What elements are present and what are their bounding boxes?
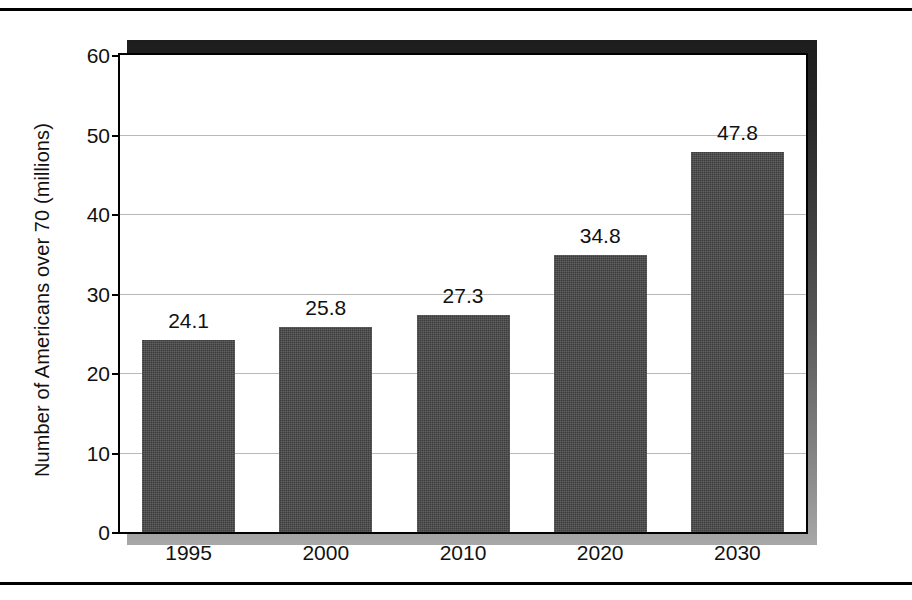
x-tick-label: 2020 — [577, 542, 624, 563]
y-tick-label: 0 — [98, 522, 110, 543]
x-tick-label: 2030 — [714, 542, 761, 563]
bar-value-label: 25.8 — [305, 297, 346, 318]
y-tick-mark — [112, 214, 120, 216]
bar-value-label: 24.1 — [168, 310, 209, 331]
y-axis-title-wrapper: Number of Americans over 70 (millions) — [22, 0, 62, 600]
y-axis-title: Number of Americans over 70 (millions) — [22, 0, 62, 600]
plot-area: 24.125.827.334.847.8 — [120, 55, 806, 532]
y-tick-label: 30 — [87, 283, 110, 304]
y-tick-mark — [112, 453, 120, 455]
x-tick-label: 2000 — [302, 542, 349, 563]
y-tick-mark — [112, 55, 120, 57]
bar-value-label: 34.8 — [580, 225, 621, 246]
gridline — [120, 135, 806, 136]
bar — [279, 327, 372, 532]
bar — [554, 255, 647, 532]
bar — [417, 315, 510, 532]
y-tick-mark — [112, 294, 120, 296]
y-axis-tick-labels: 0102030405060 — [64, 55, 110, 532]
bar-chart-figure: Number of Americans over 70 (millions) 0… — [0, 0, 912, 600]
bar — [691, 152, 784, 532]
y-tick-mark — [112, 373, 120, 375]
bar-value-label: 27.3 — [443, 285, 484, 306]
y-tick-mark — [112, 135, 120, 137]
y-tick-label: 10 — [87, 442, 110, 463]
y-tick-label: 40 — [87, 204, 110, 225]
y-tick-mark — [112, 532, 120, 534]
y-tick-label: 20 — [87, 363, 110, 384]
x-tick-label: 1995 — [165, 542, 212, 563]
x-axis-tick-labels: 19952000201020202030 — [120, 542, 806, 572]
bar-value-label: 47.8 — [717, 122, 758, 143]
x-tick-label: 2010 — [440, 542, 487, 563]
y-tick-label: 50 — [87, 124, 110, 145]
y-tick-label: 60 — [87, 45, 110, 66]
bar — [142, 340, 235, 532]
